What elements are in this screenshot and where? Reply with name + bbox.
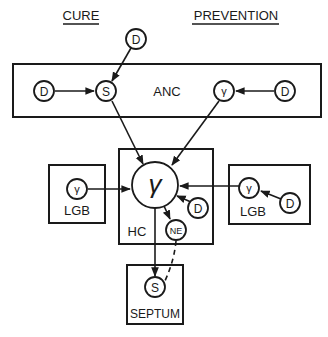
edge-ne-to-septum-dashed [164, 241, 176, 283]
edge-s-to-hcgamma [112, 101, 143, 164]
edge-gamma-to-hcgamma [172, 101, 219, 165]
nodes [34, 29, 300, 297]
node-hc-ne-label: NE [170, 226, 183, 236]
node-hc-d-label: D [194, 202, 203, 216]
header-prevention-label: PREVENTION [194, 8, 279, 23]
hc-label: HC [128, 224, 147, 239]
header-prevention: PREVENTION [192, 8, 279, 24]
node-lgb-left-gamma-label: γ [74, 183, 80, 195]
septum-label: SEPTUM [130, 307, 180, 321]
node-septum-s-label: S [151, 281, 159, 295]
edge-hcgamma-to-ne [164, 206, 170, 219]
lgb-left-label: LGB [64, 203, 90, 218]
lgb-right-label: LGB [240, 204, 266, 219]
header-cure-label: CURE [63, 8, 100, 23]
edge-hcd-to-hcgamma [177, 196, 191, 202]
header-cure: CURE [63, 8, 100, 24]
node-hc-gamma-label: γ [149, 169, 164, 199]
node-labels: D D S γ D γ D NE γ γ D S [40, 33, 295, 295]
edge-lgbrd-to-gamma [261, 191, 281, 199]
node-lgb-right-gamma-label: γ [246, 182, 252, 194]
diagram-canvas: CURE PREVENTION ANC HC LGB LGB SEPTUM [0, 0, 328, 337]
anc-label: ANC [153, 84, 180, 99]
node-lgb-right-d-label: D [286, 197, 295, 211]
node-anc-left-d-label: D [40, 85, 49, 99]
node-anc-right-d-label: D [281, 85, 290, 99]
node-anc-s-label: S [102, 85, 110, 99]
node-anc-gamma-label: γ [221, 85, 227, 97]
node-top-d-label: D [132, 33, 141, 47]
